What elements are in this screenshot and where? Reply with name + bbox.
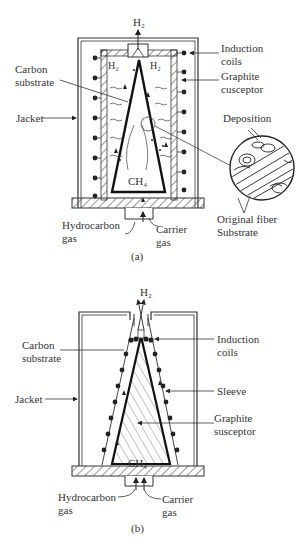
sleeve-label: Sleeve bbox=[217, 385, 246, 397]
h2-left-label: H₂ bbox=[108, 60, 119, 72]
h2-outlet-label-b: H₂ bbox=[140, 286, 152, 298]
hydrocarbon-gas-label-b: Hydrocarbon bbox=[58, 491, 116, 503]
carrier-gas-label-b-line2: gas bbox=[162, 506, 177, 518]
carbon-substrate-label-b-line2: substrate bbox=[22, 352, 61, 364]
original-fiber-label: Original fiber bbox=[217, 213, 277, 225]
graphite-susceptor-label-b: Graphite bbox=[214, 412, 252, 424]
base-plate-a bbox=[72, 198, 204, 208]
carbon-substrate-label-a-line2: substrate bbox=[15, 76, 54, 88]
carbon-substrate-label-b: Carbon bbox=[22, 339, 54, 351]
induction-coils-label-a: Induction bbox=[221, 42, 263, 54]
figure-a bbox=[42, 30, 300, 234]
figure-b bbox=[45, 300, 214, 499]
induction-coils-label-a-line2: coils bbox=[221, 55, 242, 67]
h2-outlet-label-a: H₂ bbox=[133, 16, 145, 28]
deposition-label: Deposition bbox=[223, 112, 271, 124]
jacket-label-b: Jacket bbox=[15, 393, 42, 405]
jacket-label-a: Jacket bbox=[16, 112, 43, 124]
carrier-gas-label-a-line2: gas bbox=[156, 236, 171, 248]
ch4-label-b: CH₄ bbox=[128, 457, 147, 469]
carbon-substrate-label-a: Carbon bbox=[15, 63, 47, 75]
hydrocarbon-gas-label-a: Hydrocarbon bbox=[62, 219, 120, 231]
carrier-gas-label-b: Carrier bbox=[162, 493, 193, 505]
induction-coils-label-b: Induction bbox=[217, 333, 259, 345]
graphite-cusceptor-label-line2: cusceptor bbox=[221, 83, 263, 95]
induction-coils-label-b-line2: coils bbox=[217, 346, 238, 358]
carbon-substrate-a bbox=[112, 60, 165, 192]
carrier-gas-label-a: Carrier bbox=[156, 223, 187, 235]
graphite-susceptor-label-b-line2: susceptor bbox=[214, 425, 256, 437]
graphite-cusceptor-left bbox=[101, 50, 107, 200]
deposition-magnified-view bbox=[230, 128, 300, 213]
ch4-label-a: CH₄ bbox=[128, 175, 147, 187]
hydrocarbon-gas-label-a-line2: gas bbox=[62, 232, 77, 244]
graphite-cusceptor-right bbox=[171, 50, 177, 200]
caption-b: (b) bbox=[131, 522, 144, 534]
graphite-cusceptor-label: Graphite bbox=[221, 70, 259, 82]
graphite-susceptor-b bbox=[112, 336, 170, 464]
h2-right-label: H₂ bbox=[150, 60, 161, 72]
original-fiber-label-line2: Substrate bbox=[217, 226, 258, 238]
caption-a: (a) bbox=[131, 250, 143, 262]
hydrocarbon-gas-label-b-line2: gas bbox=[58, 504, 73, 516]
